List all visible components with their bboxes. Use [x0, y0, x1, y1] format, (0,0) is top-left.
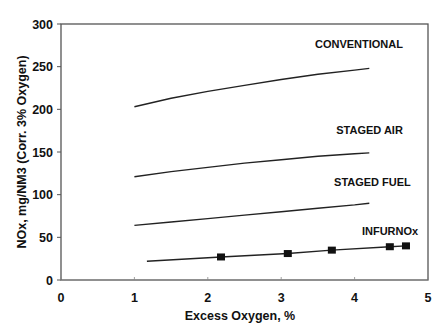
y-tick-label: 200 — [32, 103, 53, 117]
x-axis-title: Excess Oxygen, % — [185, 309, 295, 323]
plot-frame — [61, 24, 428, 280]
plot-axes: 050100150200250300012345 — [32, 18, 431, 306]
square-marker — [284, 250, 292, 257]
x-tick-label: 5 — [425, 291, 432, 305]
y-tick-label: 250 — [32, 60, 53, 74]
x-tick-label: 2 — [204, 291, 211, 305]
series-line-conventional — [134, 68, 369, 106]
square-marker — [328, 247, 336, 254]
y-axis-title: NOx, mg/NM3 (Corr. 3% Oxygen) — [15, 55, 29, 248]
series-line-staged-fuel — [134, 203, 369, 225]
nox-vs-excess-oxygen-chart: 050100150200250300012345 CONVENTIONALSTA… — [0, 0, 445, 336]
square-marker — [386, 243, 394, 250]
series-line-infurnox — [147, 246, 406, 261]
series-label-infurnox: INFURNOx — [362, 225, 419, 237]
square-marker — [402, 242, 410, 249]
x-tick-label: 1 — [131, 291, 138, 305]
y-tick-label: 0 — [46, 274, 53, 288]
x-tick-label: 0 — [58, 291, 65, 305]
x-tick-label: 3 — [278, 291, 285, 305]
square-marker — [217, 253, 225, 260]
series-label-conventional: CONVENTIONAL — [315, 38, 403, 50]
y-tick-label: 300 — [32, 18, 53, 32]
series-label-staged-fuel: STAGED FUEL — [334, 176, 411, 188]
series-line-staged-air — [134, 153, 369, 177]
y-tick-label: 100 — [32, 188, 53, 202]
series-label-staged-air: STAGED AIR — [336, 124, 403, 136]
y-tick-label: 150 — [32, 146, 53, 160]
x-tick-label: 4 — [351, 291, 358, 305]
y-tick-label: 50 — [39, 231, 53, 245]
